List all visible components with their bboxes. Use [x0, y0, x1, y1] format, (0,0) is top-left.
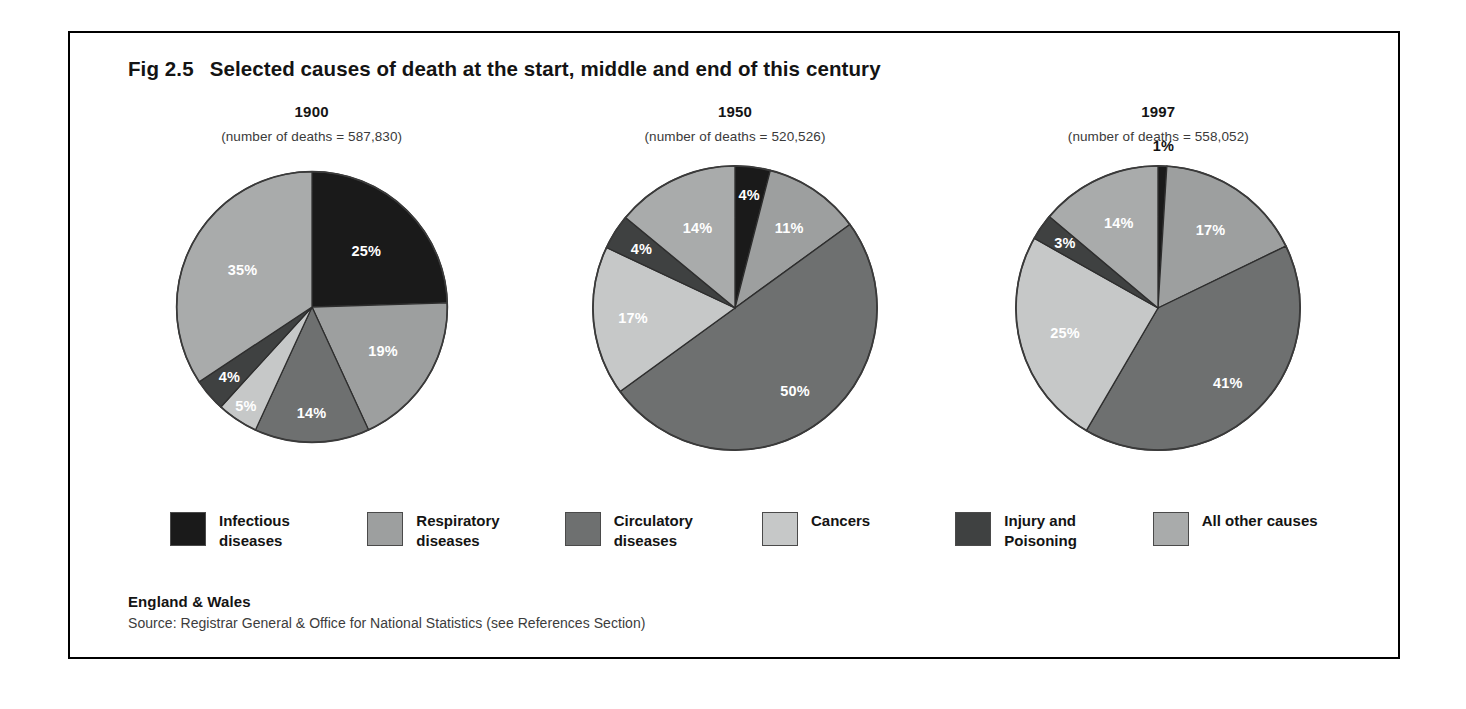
- legend-swatch-icon: [1153, 512, 1189, 546]
- legend-item-label: Cancers: [811, 511, 870, 531]
- pie-svg-1997: [1010, 160, 1306, 456]
- legend-item-respiratory[interactable]: Respiratory diseases: [367, 511, 564, 551]
- panel-deaths-label: (number of deaths = 587,830): [221, 129, 402, 144]
- pie-chart-1950: 4%11%50%17%4%14%: [587, 160, 883, 456]
- figure-footer: England & Wales Source: Registrar Genera…: [128, 593, 645, 631]
- legend-item-label: Infectious diseases: [219, 511, 354, 551]
- pie-slice[interactable]: [312, 172, 447, 307]
- legend-item-label: Injury and Poisoning: [1004, 511, 1139, 551]
- pie-panel-1900: 1900 (number of deaths = 587,830) 25%19%…: [100, 103, 523, 533]
- pie-slices-1997: [1016, 166, 1300, 450]
- pie-panel-1997: 1997 (number of deaths = 558,052) 1%17%4…: [947, 103, 1370, 533]
- legend-swatch-icon: [170, 512, 206, 546]
- pie-panels: 1900 (number of deaths = 587,830) 25%19%…: [100, 103, 1370, 533]
- pie-slices-1900: [176, 172, 447, 443]
- panel-year-label: 1997: [1141, 103, 1175, 120]
- legend-item-injury[interactable]: Injury and Poisoning: [955, 511, 1152, 551]
- legend-item-label: All other causes: [1202, 511, 1318, 531]
- pie-panel-1950: 1950 (number of deaths = 520,526) 4%11%5…: [523, 103, 946, 533]
- legend-swatch-icon: [367, 512, 403, 546]
- pie-svg-1900: [171, 166, 453, 448]
- chart-legend: Infectious diseases Respiratory diseases…: [170, 511, 1350, 551]
- panel-deaths-label: (number of deaths = 520,526): [644, 129, 825, 144]
- legend-swatch-icon: [762, 512, 798, 546]
- pie-chart-1997: 1%17%41%25%3%14%: [1010, 160, 1306, 456]
- page-title: Fig 2.5Selected causes of death at the s…: [128, 57, 881, 81]
- legend-item-circulatory[interactable]: Circulatory diseases: [565, 511, 762, 551]
- footer-region-label: England & Wales: [128, 593, 645, 610]
- footer-source-label: Source: Registrar General & Office for N…: [128, 615, 645, 631]
- figure-number: Fig 2.5: [128, 57, 194, 80]
- pie-svg-1950: [587, 160, 883, 456]
- pie-slices-1950: [593, 166, 877, 450]
- legend-item-other[interactable]: All other causes: [1153, 511, 1350, 546]
- panel-year-label: 1900: [295, 103, 329, 120]
- legend-swatch-icon: [955, 512, 991, 546]
- panel-year-label: 1950: [718, 103, 752, 120]
- figure-title-text: Selected causes of death at the start, m…: [210, 57, 881, 80]
- panel-deaths-label: (number of deaths = 558,052): [1068, 129, 1249, 144]
- figure-frame: Fig 2.5Selected causes of death at the s…: [68, 31, 1400, 659]
- legend-item-label: Respiratory diseases: [416, 511, 551, 551]
- legend-item-label: Circulatory diseases: [614, 511, 749, 551]
- pie-chart-1900: 25%19%14%5%4%35%: [171, 166, 453, 448]
- legend-item-cancers[interactable]: Cancers: [762, 511, 955, 546]
- legend-item-infectious[interactable]: Infectious diseases: [170, 511, 367, 551]
- legend-swatch-icon: [565, 512, 601, 546]
